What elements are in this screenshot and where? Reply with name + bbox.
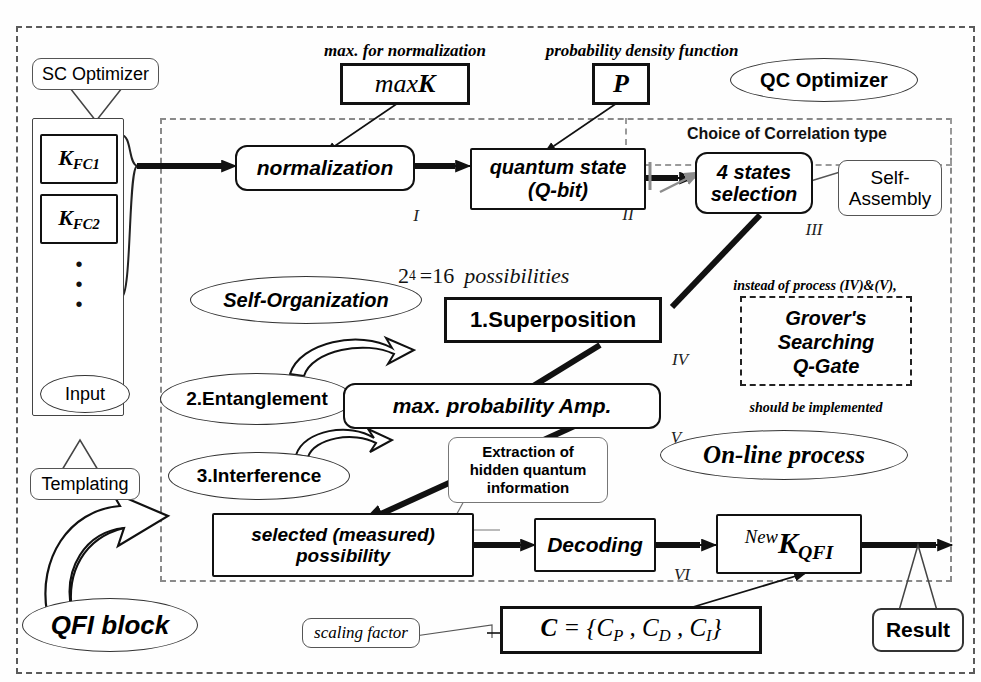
decoding-label: Decoding (547, 533, 643, 557)
possibilities-eq: =16 (420, 263, 454, 288)
quantum-state-label: quantum state (Q-bit) (490, 156, 627, 202)
max-probability-amp-box[interactable]: max. probability Amp. (343, 383, 661, 429)
grover-gate-label: Grover's Searching Q-Gate (742, 302, 910, 382)
k-fc1-label: KFC1 (58, 146, 99, 172)
possibilities-word: possibilities (464, 263, 569, 288)
annotation-should-be-implemented: should be implemented (700, 398, 932, 418)
templating-label: Templating (41, 474, 128, 495)
online-process-label: On-line process (703, 441, 865, 469)
callout-sc-optimizer[interactable]: SC Optimizer (32, 58, 159, 90)
max-k-label: maxK (375, 69, 436, 98)
normalization-label: normalization (257, 156, 394, 180)
interference-ellipse[interactable]: 3.Interference (168, 452, 350, 500)
new-k-qfi-box[interactable]: NewKQFI (716, 514, 862, 574)
new-k-qfi-label: NewKQFI (745, 526, 833, 563)
qfi-block-label: QFI block (51, 610, 169, 641)
normalization-box[interactable]: normalization (235, 145, 415, 191)
sc-optimizer-label: SC Optimizer (42, 64, 149, 85)
superposition-box[interactable]: 1.Superposition (444, 297, 662, 343)
grover-line2: Searching (778, 330, 875, 354)
self-organization-label: Self-Organization (223, 289, 389, 312)
entanglement-ellipse[interactable]: 2.Entanglement (160, 373, 354, 425)
self-assembly-callout[interactable]: Self- Assembly (838, 160, 942, 216)
scaling-coefficients-box[interactable]: C = {CP , CD , CI} (500, 606, 762, 654)
max-k-box[interactable]: maxK (340, 63, 470, 105)
decoding-box[interactable]: Decoding (534, 518, 656, 572)
numeral-IV: IV (664, 350, 696, 370)
selected-possibility-line1: selected (measured) (251, 524, 435, 545)
result-label: Result (886, 618, 950, 642)
result-callout[interactable]: Result (872, 608, 964, 652)
quantum-state-line1: quantum state (490, 156, 627, 178)
possibilities-exponent: 4 (409, 268, 416, 284)
grover-line3: Q-Gate (793, 354, 860, 378)
dot-3: • (75, 298, 82, 310)
annotation-probability-density-function: probability density function (522, 40, 762, 62)
numeral-VI: VI (668, 565, 696, 585)
self-assembly-line2: Assembly (849, 188, 931, 209)
scaling-coefficients-label: C = {CP , CD , CI} (540, 614, 721, 645)
four-states-line1: 4 states (717, 161, 792, 183)
diagram-canvas: max. for normalization probability densi… (0, 0, 981, 682)
four-states-line2: selection (711, 183, 798, 205)
self-organization-ellipse[interactable]: Self-Organization (190, 276, 422, 324)
k-fc2-label: KFC2 (58, 206, 99, 232)
extraction-line2: hidden quantum (470, 461, 587, 478)
extraction-line1: Extraction of (482, 443, 574, 460)
selected-possibility-line2: possibility (296, 545, 390, 566)
qfi-block-ellipse[interactable]: QFI block (22, 598, 198, 652)
entanglement-label: 2.Entanglement (186, 388, 327, 410)
self-assembly-label: Self- Assembly (849, 167, 931, 210)
label-choice-of-correlation-type: Choice of Correlation type (629, 123, 945, 145)
self-assembly-line1: Self- (870, 167, 909, 188)
numeral-I: I (404, 206, 428, 226)
online-process-ellipse[interactable]: On-line process (660, 430, 908, 480)
quantum-state-line2: (Q-bit) (528, 179, 588, 201)
annotation-max-for-normalization: max. for normalization (300, 40, 510, 62)
vertical-dots: • • • (40, 252, 118, 316)
extraction-line3: information (487, 479, 570, 496)
annotation-instead-of-process: instead of process (IV)&(V), (690, 276, 940, 296)
selected-possibility-label: selected (measured) possibility (251, 524, 435, 567)
extraction-callout[interactable]: Extraction of hidden quantum information (448, 437, 608, 503)
input-label: Input (65, 384, 105, 405)
k-fc1-box[interactable]: KFC1 (40, 134, 118, 184)
max-probability-amp-label: max. probability Amp. (393, 394, 612, 418)
quantum-state-box[interactable]: quantum state (Q-bit) (470, 148, 646, 210)
input-ellipse[interactable]: Input (40, 375, 130, 413)
p-box[interactable]: P (592, 63, 650, 105)
selected-possibility-box[interactable]: selected (measured) possibility (212, 513, 474, 577)
k-fc2-box[interactable]: KFC2 (40, 194, 118, 244)
scaling-factor-callout[interactable]: scaling factor (302, 618, 420, 648)
annotation-possibilities: 24=16possibilities (398, 262, 698, 290)
callout-templating[interactable]: Templating (30, 468, 140, 500)
scaling-factor-label: scaling factor (314, 623, 408, 642)
four-states-label: 4 states selection (711, 161, 798, 206)
p-label: P (613, 69, 629, 98)
grover-line1: Grover's (785, 306, 866, 330)
dot-2: • (75, 278, 82, 290)
extraction-label: Extraction of hidden quantum information (470, 443, 587, 497)
dot-1: • (75, 258, 82, 270)
qc-optimizer-ellipse[interactable]: QC Optimizer (730, 58, 918, 102)
interference-label: 3.Interference (197, 465, 322, 487)
numeral-III: III (798, 220, 830, 240)
qc-optimizer-label: QC Optimizer (760, 69, 888, 92)
superposition-label: 1.Superposition (470, 308, 636, 333)
four-states-selection-box[interactable]: 4 states selection (695, 152, 813, 214)
